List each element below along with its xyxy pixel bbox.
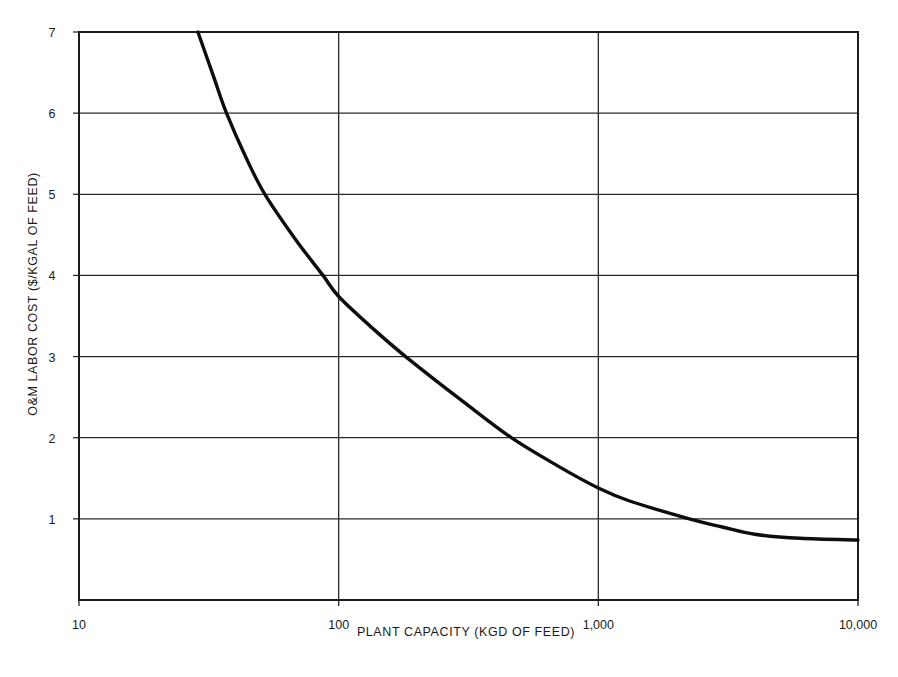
plot-frame xyxy=(79,32,858,600)
x-tick-label: 100 xyxy=(328,618,349,632)
x-tick-label: 10,000 xyxy=(839,618,877,632)
y-axis-title: O&M LABOR COST ($/KGAL OF FEED) xyxy=(26,172,40,416)
y-tick-label: 2 xyxy=(49,432,56,446)
y-tick-label: 4 xyxy=(49,269,56,283)
y-tick-label: 3 xyxy=(49,351,56,365)
axis-ticks xyxy=(73,32,858,606)
x-tick-label: 1,000 xyxy=(583,618,614,632)
cost-curve-line xyxy=(198,32,858,540)
chart: 101001,00010,000 1234567 PLANT CAPACITY … xyxy=(0,0,898,677)
y-tick-label: 5 xyxy=(49,188,56,202)
y-tick-label: 6 xyxy=(49,107,56,121)
y-tick-label: 7 xyxy=(49,26,56,40)
x-tick-label: 10 xyxy=(72,618,86,632)
x-axis-title: PLANT CAPACITY (KGD OF FEED) xyxy=(357,625,575,639)
y-tick-label: 1 xyxy=(49,513,56,527)
y-axis-tick-labels: 1234567 xyxy=(49,26,56,527)
gridlines xyxy=(79,32,858,600)
